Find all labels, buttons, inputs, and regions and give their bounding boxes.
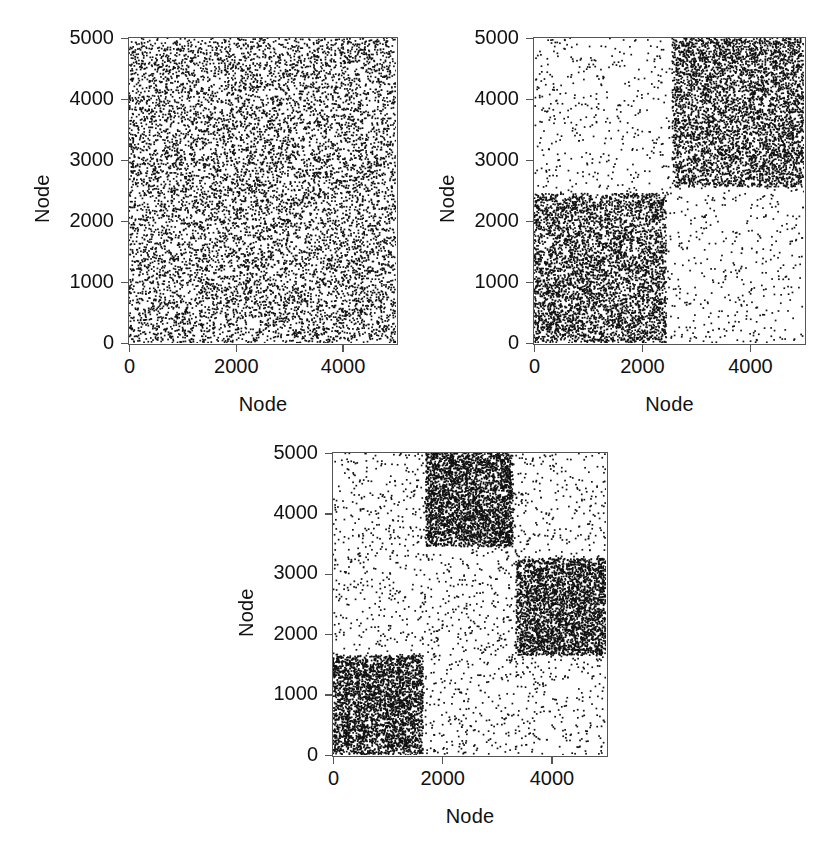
y-tick-label: 5000 [431,26,519,49]
y-tick-label: 3000 [431,148,519,171]
y-tick-label: 1000 [230,682,318,705]
y-tick-label: 0 [431,331,519,354]
y-tick-mark [526,38,533,40]
y-axis-title-panel-c: Node [235,588,258,637]
x-tick-label: 0 [70,355,190,378]
y-tick-mark [526,282,533,284]
y-tick-mark [121,38,128,40]
x-axis-title-panel-b: Node [473,393,838,416]
y-tick-label: 0 [26,331,114,354]
x-tick-mark [551,757,553,764]
x-axis-title-panel-c: Node [272,805,668,828]
x-tick-label: 2000 [583,355,703,378]
y-tick-label: 3000 [230,561,318,584]
y-tick-mark [325,574,332,576]
x-tick-mark [129,345,131,352]
x-tick-mark [534,345,536,352]
y-axis-title-panel-a: Node [31,174,54,223]
y-axis-title-panel-b: Node [436,174,459,223]
y-tick-mark [121,282,128,284]
figure-root: 010002000300040005000020004000 Node Node… [0,0,838,855]
y-tick-label: 5000 [26,26,114,49]
y-tick-mark [121,160,128,162]
plot-frame-panel-a [128,37,398,345]
y-tick-mark [121,99,128,101]
y-tick-mark [325,513,332,515]
y-tick-mark [325,634,332,636]
x-axis-title-panel-a: Node [68,393,458,416]
y-tick-label: 3000 [26,148,114,171]
y-tick-label: 0 [230,743,318,766]
x-tick-mark [642,345,644,352]
y-tick-mark [526,160,533,162]
y-tick-mark [121,221,128,223]
y-tick-label: 4000 [26,87,114,110]
x-tick-label: 0 [475,355,595,378]
scatter-canvas-panel-c [333,453,606,755]
y-tick-mark [325,694,332,696]
x-tick-mark [342,345,344,352]
plot-frame-panel-b [533,37,806,345]
y-tick-mark [526,221,533,223]
x-tick-mark [333,757,335,764]
x-tick-label: 0 [274,767,394,790]
y-tick-label: 1000 [26,270,114,293]
x-tick-label: 2000 [383,767,503,790]
y-tick-mark [526,343,533,345]
scatter-canvas-panel-a [129,38,396,343]
y-tick-mark [526,99,533,101]
y-tick-label: 4000 [431,87,519,110]
scatter-canvas-panel-b [534,38,804,343]
x-tick-label: 4000 [283,355,403,378]
y-tick-mark [325,755,332,757]
plot-frame-panel-c [332,452,608,757]
y-tick-label: 4000 [230,501,318,524]
y-tick-label: 5000 [230,441,318,464]
x-tick-mark [236,345,238,352]
x-tick-label: 4000 [492,767,612,790]
y-tick-mark [325,453,332,455]
x-tick-label: 2000 [176,355,296,378]
y-tick-mark [121,343,128,345]
y-tick-label: 1000 [431,270,519,293]
x-tick-mark [750,345,752,352]
x-tick-label: 4000 [691,355,811,378]
x-tick-mark [442,757,444,764]
